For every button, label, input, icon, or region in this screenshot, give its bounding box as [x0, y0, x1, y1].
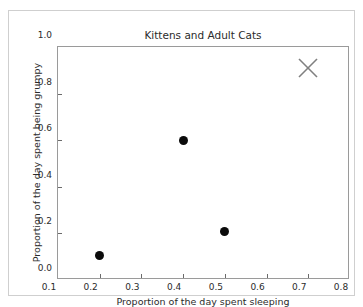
y-axis-tick-label: 0.4 — [24, 170, 52, 181]
x-axis-tick-mark — [141, 274, 142, 278]
y-axis-tick-label: 0.6 — [24, 123, 52, 134]
x-axis-tick-mark — [183, 274, 184, 278]
x-axis-tick-label: 0.3 — [115, 282, 149, 292]
x-axis-tick-mark — [100, 274, 101, 278]
x-axis-tick-label: 0.8 — [324, 282, 358, 292]
x-axis-tick-label: 0.6 — [241, 282, 275, 292]
x-axis-tick-mark — [267, 274, 268, 278]
y-axis-tick-mark — [58, 94, 62, 95]
y-axis-tick-mark — [58, 140, 62, 141]
plot-area — [57, 46, 349, 279]
figure-frame: Kittens and Adult Cats Proportion of the… — [8, 10, 355, 296]
y-axis-tick-label: 0.8 — [24, 77, 52, 88]
y-axis-tick-label: 0.2 — [24, 216, 52, 227]
page-title: Kittens and Adult Cats — [57, 29, 349, 42]
x-marker-point — [297, 57, 319, 79]
x-axis-tick-label: 0.4 — [157, 282, 191, 292]
x-axis-label: Proportion of the day spent sleeping — [57, 296, 349, 307]
y-axis-tick-mark — [58, 187, 62, 188]
x-axis-tick-label: 0.7 — [282, 282, 316, 292]
y-axis-tick-label: 0.0 — [24, 263, 52, 274]
data-point — [179, 136, 188, 145]
y-axis-tick-mark — [58, 233, 62, 234]
x-axis-tick-mark — [308, 274, 309, 278]
data-point — [95, 251, 104, 260]
x-axis-tick-label: 0.5 — [199, 282, 233, 292]
y-axis-tick-label: 1.0 — [24, 30, 52, 41]
x-axis-tick-label: 0.1 — [32, 282, 66, 292]
x-axis-tick-mark — [225, 274, 226, 278]
data-point — [220, 227, 229, 236]
x-axis-tick-label: 0.2 — [74, 282, 108, 292]
